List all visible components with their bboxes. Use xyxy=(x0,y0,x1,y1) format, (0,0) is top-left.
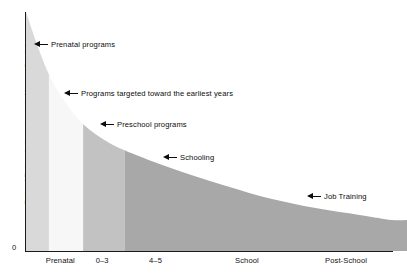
category-band xyxy=(125,12,228,251)
annotation-job-training: Job Training xyxy=(307,192,367,201)
x-axis-line xyxy=(25,251,393,252)
x-axis-label-4-5: 4–5 xyxy=(106,256,206,265)
annotation-label: Schooling xyxy=(180,153,214,162)
left-arrow-icon xyxy=(307,193,321,200)
x-axis-label-post-school: Post-School xyxy=(296,256,396,265)
annotation-prenatal-programs: Prenatal programs xyxy=(34,40,115,49)
y-axis-origin-tick-label: 0 xyxy=(12,243,16,252)
annotation-label: Preschool programs xyxy=(117,120,187,129)
chart-figure: Rate of Return to Investment in Human Ca… xyxy=(0,0,407,273)
annotation-earliest-years: Programs targeted toward the earliest ye… xyxy=(64,89,233,98)
left-arrow-icon xyxy=(163,154,177,161)
annotation-label: Prenatal programs xyxy=(51,40,115,49)
category-band xyxy=(228,12,407,251)
annotation-schooling: Schooling xyxy=(163,153,214,162)
annotation-label: Programs targeted toward the earliest ye… xyxy=(81,89,233,98)
annotation-label: Job Training xyxy=(324,192,367,201)
left-arrow-icon xyxy=(64,90,78,97)
annotation-preschool-programs: Preschool programs xyxy=(100,120,187,129)
left-arrow-icon xyxy=(34,41,48,48)
x-axis-label-school: School xyxy=(197,256,297,265)
left-arrow-icon xyxy=(100,121,114,128)
